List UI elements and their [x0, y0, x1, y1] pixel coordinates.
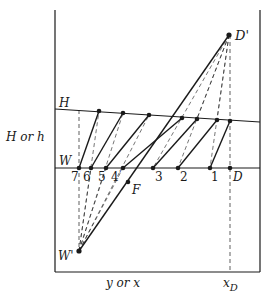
- label-x-tick: xD: [223, 276, 238, 293]
- balance-line: [79, 35, 229, 251]
- label-end-point: D: [232, 170, 243, 184]
- feed-point: [126, 180, 131, 185]
- stage-number: 2: [180, 170, 188, 184]
- label-lower-pole: W': [58, 249, 74, 263]
- stage-number: 1: [211, 170, 219, 184]
- stage-number: 3: [155, 170, 163, 184]
- stage-number: 4: [111, 170, 119, 184]
- label-w-line: W: [59, 154, 73, 168]
- stage-numbers: 7 6 5 4 3 2 1: [71, 170, 219, 184]
- stage-number: 6: [83, 170, 91, 184]
- label-upper-pole: D': [234, 28, 249, 43]
- frame: [55, 10, 260, 272]
- label-y-axis: H or h: [5, 130, 45, 144]
- label-feed: F: [131, 183, 141, 197]
- tie-line-4: [123, 118, 182, 168]
- stage-number: 5: [98, 170, 106, 184]
- hw-diagram: D' H H or h W F W' D 7 6 5 4 3 2 1 ' y o…: [0, 0, 275, 300]
- tie-lines: [79, 111, 230, 168]
- lower-pole-point: [76, 248, 81, 253]
- dashed-verticals: [79, 35, 230, 272]
- stage-number: 7: [71, 170, 79, 184]
- stage-4-prime: ': [119, 169, 121, 179]
- upper-pole-point: [226, 32, 231, 37]
- label-h-line: H: [58, 96, 70, 110]
- dashed-rays-upper-pole: [153, 35, 229, 168]
- label-x-axis: y or x: [105, 276, 140, 290]
